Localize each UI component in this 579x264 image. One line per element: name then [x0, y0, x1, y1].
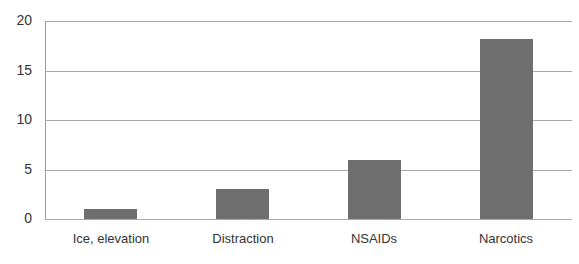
bar-nsaids — [348, 160, 401, 219]
x-tick-label: Ice, elevation — [46, 231, 176, 246]
y-tick-label: 20 — [2, 12, 32, 28]
y-tick-label: 15 — [2, 62, 32, 78]
bar-distraction — [216, 189, 269, 219]
x-tick-label: NSAIDs — [309, 231, 439, 246]
x-tick-label: Narcotics — [441, 231, 571, 246]
x-tick-label: Distraction — [178, 231, 308, 246]
bar-chart: 05101520Ice, elevationDistractionNSAIDsN… — [0, 0, 579, 264]
y-tick-label: 10 — [2, 111, 32, 127]
bar-ice-elevation — [84, 209, 137, 219]
y-tick-label: 5 — [2, 161, 32, 177]
y-tick-label: 0 — [2, 210, 32, 226]
bar-narcotics — [480, 39, 533, 219]
gridline — [45, 21, 572, 22]
x-axis-line — [45, 219, 572, 220]
